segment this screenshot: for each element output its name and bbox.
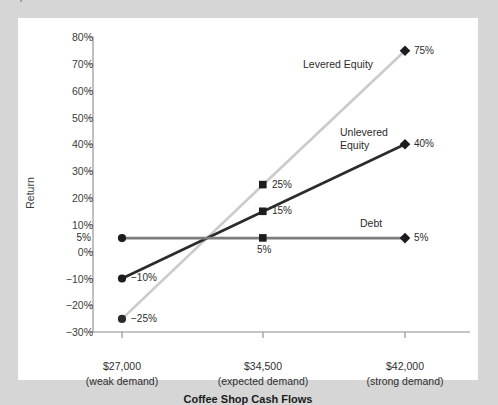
y-tick-label: 10% — [47, 219, 93, 231]
marker-unlevered-equity-expected — [259, 208, 267, 216]
point-label-debt-strong: 5% — [414, 232, 428, 243]
marker-debt-weak — [118, 234, 126, 242]
series-label-debt: Debt — [360, 217, 382, 230]
x-tick-group-weak: $27,000 (weak demand) — [47, 359, 197, 389]
y-tick-label: −30% — [47, 326, 93, 338]
clipped-body-text-strip: premium from 10% to 20%. — [0, 0, 498, 14]
x-tick-label: $34,500 — [188, 359, 338, 374]
y-tick-label: −10% — [47, 273, 93, 285]
x-tick-marks — [122, 332, 405, 338]
x-tick-sublabel: (expected demand) — [188, 374, 338, 389]
marker-debt-strong — [400, 233, 411, 244]
x-tick-group-expected: $34,500 (expected demand) — [188, 359, 338, 389]
marker-levered-equity-weak — [118, 315, 126, 323]
marker-levered-equity-expected — [259, 181, 267, 189]
y-tick-label: 70% — [47, 58, 93, 70]
point-label-levered-equity-expected: 25% — [272, 179, 292, 190]
point-label-unlevered-equity-weak: −10% — [131, 272, 157, 283]
x-axis-title: Coffee Shop Cash Flows — [184, 393, 313, 405]
point-label-unlevered-equity-strong: 40% — [414, 138, 434, 149]
y-tick-labels: 80% 70% 60% 50% 40% 30% 20% 10% 0% −10% … — [40, 18, 93, 380]
y-axis-title: Return — [24, 177, 36, 209]
y-tick-label: 50% — [47, 112, 93, 124]
series-label-unlevered-equity-line1: Unlevered — [340, 126, 388, 139]
point-label-debt-expected: 5% — [257, 244, 271, 255]
x-tick-label: $42,000 — [330, 359, 480, 374]
x-tick-group-strong: $42,000 (strong demand) — [330, 359, 480, 389]
marker-debt-expected — [259, 234, 267, 242]
x-tick-sublabel: (weak demand) — [47, 374, 197, 389]
y-tick-label: 80% — [47, 31, 93, 43]
y-tick-label: 20% — [47, 192, 93, 204]
point-label-levered-equity-weak: −25% — [131, 313, 157, 324]
marker-unlevered-equity-strong — [400, 139, 411, 150]
x-tick-label: $27,000 — [47, 359, 197, 374]
point-label-debt-weak: 5% — [77, 232, 91, 243]
series-label-levered-equity: Levered Equity — [303, 58, 373, 71]
y-tick-label: 60% — [47, 85, 93, 97]
y-tick-label: 0% — [47, 246, 93, 258]
point-label-unlevered-equity-expected: 15% — [272, 205, 292, 216]
y-tick-label: 40% — [47, 138, 93, 150]
y-tick-label: 30% — [47, 165, 93, 177]
figure-panel: 80% 70% 60% 50% 40% 30% 20% 10% 0% −10% … — [18, 18, 478, 380]
clipped-body-text: premium from 10% to 20%. — [20, 0, 138, 2]
series-label-unlevered-equity-line2: Equity — [340, 139, 369, 152]
marker-unlevered-equity-weak — [118, 274, 126, 282]
x-tick-sublabel: (strong demand) — [330, 374, 480, 389]
y-tick-label: −20% — [47, 299, 93, 311]
chart-plot-area: 80% 70% 60% 50% 40% 30% 20% 10% 0% −10% … — [18, 18, 478, 380]
point-label-levered-equity-strong: 75% — [414, 45, 434, 56]
